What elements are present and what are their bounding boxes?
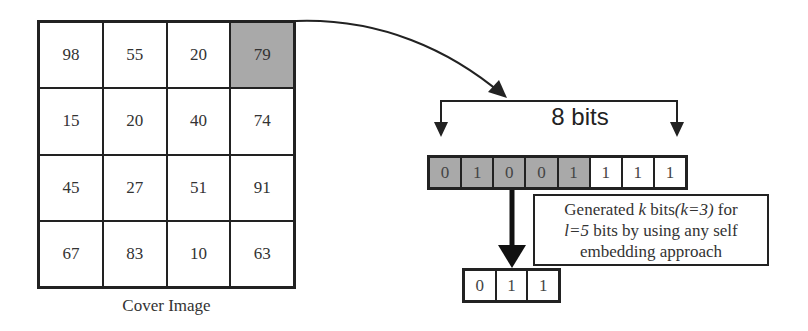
bit-cell-selected: 0 [525,157,557,188]
note-line-2: l=5 bits by using any self [535,220,767,241]
note-text: bits [646,200,675,219]
note-text: Generated [564,200,638,219]
note-line-1: Generated k bits(k=3) for [535,199,767,220]
note-text: bits by using any self [589,221,738,240]
note-box: Generated k bits(k=3) for l=5 bits by us… [533,194,769,266]
note-var: k [638,200,646,219]
bit-cell-selected: 1 [461,157,493,188]
curved-arrow-head [488,80,507,98]
bit-cell-selected: 1 [558,157,590,188]
output-bit-cell: 0 [464,270,496,301]
output-bit-cell: 1 [496,270,528,301]
bracket-left-arrow-icon [434,122,448,137]
bit-cell: 1 [622,157,654,188]
output-bits: 0 1 1 [462,268,561,303]
note-var: l=5 [564,221,589,240]
bracket-right-arrow-icon [670,122,684,137]
bit-cell: 1 [654,157,686,188]
bit-cell: 1 [590,157,622,188]
note-line-3: embedding approach [535,241,767,262]
bit-cell-selected: 0 [493,157,525,188]
note-var: (k=3) [675,200,714,219]
curved-arrow [296,21,503,95]
bit-cell-selected: 0 [429,157,461,188]
output-bit-cell: 1 [527,270,559,301]
note-text: for [714,200,738,219]
down-arrow-head [498,245,526,268]
bits-label: 8 bits [520,103,640,131]
bit-row: 0 1 0 0 1 1 1 1 [427,155,688,190]
